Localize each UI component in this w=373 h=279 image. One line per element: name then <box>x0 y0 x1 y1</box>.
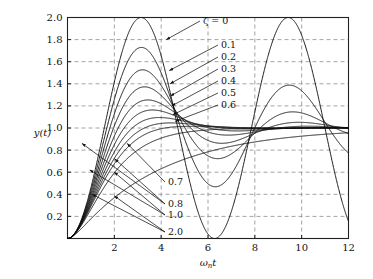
y-tick-label: 0.6 <box>47 167 63 178</box>
y-tick-label: 1.6 <box>47 56 63 67</box>
x-tick-label: 2 <box>111 242 117 253</box>
y-tick-label: 1.2 <box>47 100 63 111</box>
step-response-chart: 0.20.40.60.81.01.21.41.61.82.024681012y(… <box>0 0 373 279</box>
y-tick-label: 2.0 <box>47 12 63 23</box>
x-tick-label: 8 <box>252 242 258 253</box>
y-tick-label: 0.2 <box>47 211 63 222</box>
curve-annotation-label: ζ = 0 <box>203 15 228 26</box>
curve-annotation-label: 0.4 <box>221 75 236 86</box>
y-tick-label: 0.8 <box>47 145 63 156</box>
chart-figure: 0.20.40.60.81.01.21.41.61.82.024681012y(… <box>0 0 373 279</box>
curve-annotation-label: 0.7 <box>168 176 183 187</box>
curve-annotation-label: 0.3 <box>221 63 236 74</box>
y-tick-label: 0.4 <box>47 189 63 200</box>
curve-annotation-label: 0.6 <box>221 99 236 110</box>
y-tick-label: 1.8 <box>47 34 63 45</box>
curve-annotation-label: 0.2 <box>221 51 236 62</box>
curve-annotation-label: 2.0 <box>168 226 183 237</box>
x-tick-label: 6 <box>205 242 211 253</box>
curve-annotation-label: 0.1 <box>221 39 236 50</box>
y-tick-label: 1.4 <box>47 78 63 89</box>
y-axis-title: y(t) <box>33 127 52 138</box>
x-tick-label: 4 <box>158 242 164 253</box>
curve-annotation-label: 1.0 <box>168 209 183 220</box>
curve-annotation-label: 0.8 <box>168 198 183 209</box>
x-tick-label: 10 <box>295 242 308 253</box>
x-tick-label: 12 <box>342 242 355 253</box>
curve-annotation-label: 0.5 <box>221 87 236 98</box>
